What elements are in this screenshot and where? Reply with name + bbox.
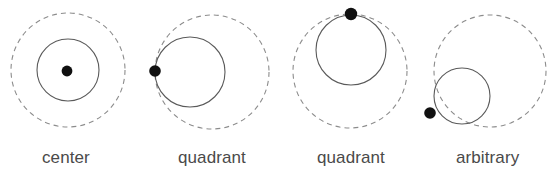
reference-circle-dashed bbox=[434, 15, 546, 127]
inner-circle-solid bbox=[434, 68, 490, 124]
panel-label-quadrant-top: quadrant bbox=[317, 149, 385, 166]
inner-circle-solid bbox=[316, 15, 386, 85]
panel-center-graphic bbox=[11, 13, 125, 127]
circle-placement-figure: center quadrant quadrant arbitrary bbox=[0, 0, 549, 178]
anchor-dot bbox=[149, 65, 161, 77]
panel-quadrant-left-graphic bbox=[149, 15, 269, 129]
anchor-dot bbox=[424, 107, 436, 119]
anchor-dot bbox=[345, 8, 357, 20]
panel-quadrant-top-graphic bbox=[293, 8, 407, 128]
panel-label-arbitrary: arbitrary bbox=[456, 149, 519, 166]
reference-circle-dashed bbox=[155, 15, 269, 129]
panel-label-center: center bbox=[42, 149, 90, 166]
panel-arbitrary-graphic bbox=[424, 15, 546, 127]
reference-circle-dashed bbox=[293, 14, 407, 128]
panel-label-quadrant-left: quadrant bbox=[178, 149, 246, 166]
inner-circle-solid bbox=[155, 37, 225, 107]
anchor-dot bbox=[62, 66, 73, 77]
